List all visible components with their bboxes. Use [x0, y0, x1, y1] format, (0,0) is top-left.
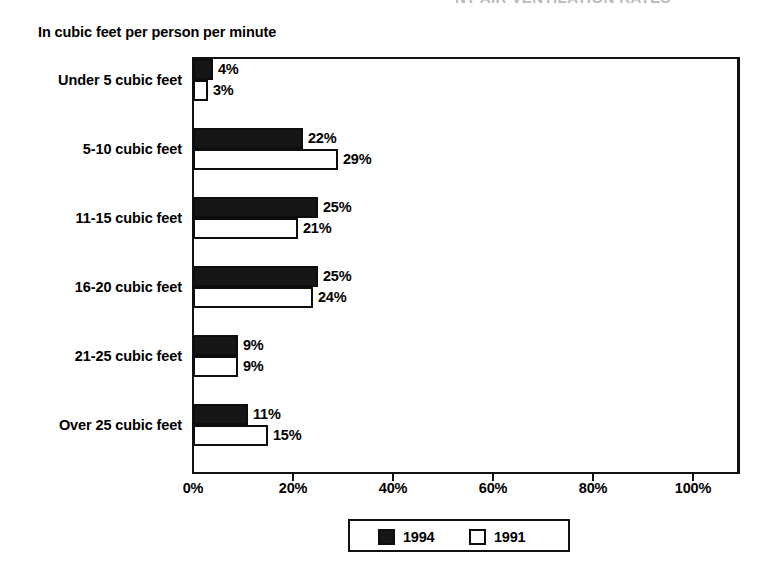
chart-legend: 1994 1991 [348, 519, 570, 552]
bar-1991-1 [193, 80, 208, 101]
x-axis-tick-label: 0% [183, 480, 204, 496]
bar-1994-2 [193, 128, 303, 149]
chart-subtitle: In cubic feet per person per minute [38, 24, 276, 40]
bar-value-label: 3% [213, 80, 234, 101]
bar-1991-6 [193, 425, 268, 446]
bar-value-label: 9% [243, 356, 264, 377]
bar-value-label: 25% [323, 197, 351, 218]
x-axis-tick-label: 80% [579, 480, 607, 496]
clipped-headline-text: NT AIR VENTILATION RATES [455, 0, 671, 6]
bar-value-label: 15% [273, 425, 301, 446]
bar-1994-3 [193, 197, 318, 218]
bar-value-label: 24% [318, 287, 346, 308]
legend-label-1994: 1994 [403, 529, 434, 545]
bar-1991-4 [193, 287, 313, 308]
legend-label-1991: 1991 [494, 529, 525, 545]
bar-value-label: 25% [323, 266, 351, 287]
legend-swatch-1991-icon [469, 529, 486, 545]
x-axis-tick-label: 20% [279, 480, 307, 496]
bar-1994-1 [193, 59, 213, 80]
legend-entry-1994: 1994 [378, 527, 434, 546]
clipped-headline-band: NT AIR VENTILATION RATES [0, 0, 761, 9]
bar-value-label: 9% [243, 335, 264, 356]
x-axis-tick-label: 60% [479, 480, 507, 496]
bar-value-label: 29% [343, 149, 371, 170]
bar-1994-5 [193, 335, 238, 356]
bar-1991-3 [193, 218, 298, 239]
category-label: 16-20 cubic feet [75, 279, 182, 295]
category-label: Under 5 cubic feet [58, 72, 182, 88]
bar-1994-6 [193, 404, 248, 425]
x-axis-tick-label: 40% [379, 480, 407, 496]
bar-1991-2 [193, 149, 338, 170]
category-label: 21-25 cubic feet [75, 348, 182, 364]
category-label: 11-15 cubic feet [76, 210, 182, 226]
bar-value-label: 22% [308, 128, 336, 149]
bar-value-label: 11% [253, 404, 281, 425]
legend-swatch-1994-icon [378, 529, 395, 545]
bar-value-label: 21% [303, 218, 331, 239]
category-label: 5-10 cubic feet [83, 141, 182, 157]
legend-entry-1991: 1991 [469, 527, 525, 546]
bar-1994-4 [193, 266, 318, 287]
category-label: Over 25 cubic feet [59, 417, 182, 433]
x-axis-tick-label: 100% [675, 480, 711, 496]
bar-value-label: 4% [218, 59, 239, 80]
bar-1991-5 [193, 356, 238, 377]
